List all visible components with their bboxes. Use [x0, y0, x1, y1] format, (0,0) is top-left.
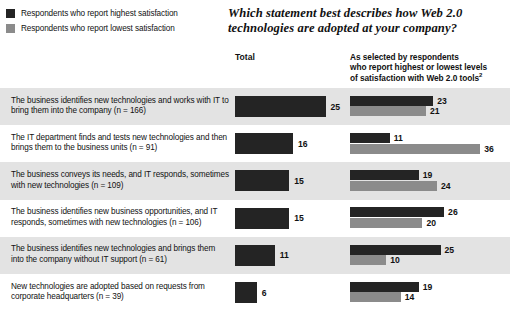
legend-item-label: Respondents who report lowest satisfacti…	[21, 24, 175, 33]
selected-bar-lowest	[350, 181, 437, 191]
total-value-label: 15	[294, 213, 304, 223]
total-value-label: 25	[331, 102, 341, 112]
selected-bar-highest	[350, 282, 419, 292]
selected-value-label-lowest: 24	[441, 181, 451, 191]
selected-bar-highest	[350, 207, 444, 217]
total-bar-group: 25	[235, 96, 340, 118]
row-label: The business identifies new technologies…	[11, 245, 229, 266]
row-label: The business identifies new business opp…	[11, 208, 229, 229]
total-bar	[235, 133, 293, 154]
selected-value-label-lowest: 14	[405, 292, 415, 302]
selected-bar-line-highest: 19	[350, 170, 508, 181]
legend: Respondents who report highest satisfact…	[6, 7, 226, 37]
total-bar	[235, 170, 289, 191]
legend-item-label: Respondents who report highest satisfact…	[21, 9, 178, 18]
selected-bar-highest	[350, 170, 419, 180]
row-label: The IT department finds and tests new te…	[11, 133, 229, 154]
total-value-label: 15	[294, 176, 304, 186]
selected-value-label-lowest: 10	[390, 255, 400, 265]
total-value-label: 16	[298, 139, 308, 149]
table-row: The IT department finds and tests new te…	[0, 125, 510, 162]
selected-bar-highest	[350, 245, 441, 255]
column-header-total: Total	[235, 52, 255, 62]
table-row: The business conveys its needs, and IT r…	[0, 162, 510, 199]
selected-bar-lowest	[350, 292, 401, 302]
selected-bar-line-lowest: 21	[350, 106, 508, 117]
column-header-selected-line2: who report highest or lowest levels	[350, 62, 487, 72]
total-bar-group: 15	[235, 170, 304, 192]
selected-bar-line-highest: 11	[350, 133, 508, 144]
legend-swatch-lowest	[6, 24, 15, 33]
selected-bar-lowest	[350, 144, 480, 154]
table-row: The business identifies new technologies…	[0, 88, 510, 125]
selected-bar-line-lowest: 20	[350, 218, 508, 229]
total-bar	[235, 96, 326, 117]
column-header-selected: As selected by respondents who report hi…	[350, 52, 510, 83]
selected-value-label-highest: 19	[423, 170, 433, 180]
selected-bar-group: 2510	[350, 244, 508, 266]
total-bar	[235, 208, 289, 229]
selected-bar-highest	[350, 133, 390, 143]
selected-bar-lowest	[350, 255, 386, 265]
selected-value-label-lowest: 20	[426, 218, 436, 228]
total-bar	[235, 282, 257, 303]
selected-bar-lowest	[350, 218, 422, 228]
row-label: The business identifies new technologies…	[11, 96, 229, 117]
selected-bar-group: 1136	[350, 133, 508, 155]
column-header-footnote-marker: 2	[479, 72, 482, 78]
selected-value-label-highest: 23	[437, 96, 447, 106]
total-bar	[235, 245, 275, 266]
selected-bar-lowest	[350, 106, 426, 116]
selected-value-label-lowest: 21	[430, 106, 440, 116]
selected-bar-line-highest: 19	[350, 282, 508, 293]
selected-value-label-highest: 11	[394, 133, 403, 143]
selected-bar-group: 1914	[350, 282, 508, 304]
total-value-label: 11	[280, 250, 289, 260]
legend-item: Respondents who report lowest satisfacti…	[6, 22, 226, 35]
selected-bar-group: 2620	[350, 207, 508, 229]
selected-value-label-highest: 26	[448, 207, 458, 217]
selected-value-label-highest: 25	[445, 245, 455, 255]
row-label: The business conveys its needs, and IT r…	[11, 170, 229, 191]
selected-bar-line-highest: 26	[350, 207, 508, 218]
table-row: The business identifies new technologies…	[0, 237, 510, 274]
total-bar-group: 16	[235, 133, 307, 155]
selected-bar-line-lowest: 14	[350, 292, 508, 303]
selected-value-label-highest: 19	[423, 282, 433, 292]
selected-bar-line-lowest: 36	[350, 143, 508, 154]
table-row: New technologies are adopted based on re…	[0, 274, 510, 311]
total-bar-group: 15	[235, 207, 304, 229]
total-value-label: 6	[262, 288, 267, 298]
selected-value-label-lowest: 36	[484, 144, 494, 154]
column-header-selected-line1: As selected by respondents	[350, 52, 459, 62]
selected-bar-group: 1924	[350, 170, 508, 192]
selected-bar-line-lowest: 10	[350, 255, 508, 266]
selected-bar-line-lowest: 24	[350, 180, 508, 191]
selected-bar-highest	[350, 96, 433, 106]
column-header-selected-line3: of satisfaction with Web 2.0 tools	[350, 73, 479, 83]
table-row: The business identifies new business opp…	[0, 200, 510, 237]
selected-bar-line-highest: 25	[350, 244, 508, 255]
chart-rows: The business identifies new technologies…	[0, 88, 510, 311]
legend-item: Respondents who report highest satisfact…	[6, 7, 226, 20]
total-bar-group: 6	[235, 282, 267, 304]
chart-title: Which statement best describes how Web 2…	[228, 6, 504, 36]
row-label: New technologies are adopted based on re…	[11, 282, 229, 303]
legend-swatch-highest	[6, 9, 15, 18]
total-bar-group: 11	[235, 244, 289, 266]
selected-bar-line-highest: 23	[350, 96, 508, 107]
selected-bar-group: 2321	[350, 96, 508, 118]
